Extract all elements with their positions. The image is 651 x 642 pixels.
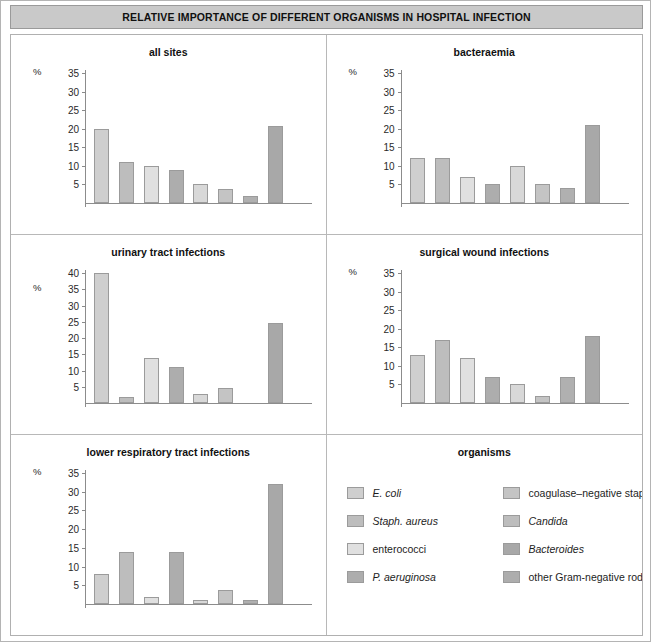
- y-tick-mark: [82, 567, 86, 568]
- bar: [94, 129, 109, 203]
- bar: [193, 394, 208, 403]
- y-tick-label: 15: [55, 542, 79, 553]
- y-tick-mark: [82, 184, 86, 185]
- bar: [169, 552, 184, 604]
- y-tick-mark: [82, 338, 86, 339]
- y-tick-mark: [398, 73, 402, 74]
- legend-item: Bacteroides: [503, 543, 643, 555]
- y-axis-unit-label: %: [33, 66, 41, 77]
- y-tick-label: 10: [55, 561, 79, 572]
- y-tick-mark: [82, 322, 86, 323]
- y-axis-unit-label: %: [349, 66, 357, 77]
- x-axis-line: [85, 403, 312, 404]
- y-tick-label: 10: [55, 365, 79, 376]
- legend-items: E. colicoagulase–negative staphsStaph. a…: [347, 487, 633, 583]
- legend-swatch: [347, 543, 364, 555]
- y-tick-label: 25: [371, 305, 395, 316]
- bar: [410, 158, 425, 203]
- y-tick-mark: [398, 273, 402, 274]
- y-tick-mark: [82, 129, 86, 130]
- panel-grid: all sites %5101520253035 bacteraemia %51…: [10, 34, 643, 636]
- legend-label: Candida: [529, 515, 568, 527]
- y-tick-label: 5: [371, 179, 395, 190]
- y-tick-mark: [82, 92, 86, 93]
- y-tick-label: 5: [55, 179, 79, 190]
- plot-area-1: %5101520253035: [327, 35, 643, 234]
- legend-item: P. aeruginosa: [347, 571, 497, 583]
- y-tick-mark: [82, 510, 86, 511]
- y-tick-mark: [398, 147, 402, 148]
- y-tick-label: 15: [55, 349, 79, 360]
- y-tick-label: 15: [371, 142, 395, 153]
- y-tick-mark: [398, 166, 402, 167]
- y-axis-unit-label: %: [33, 282, 41, 293]
- y-tick-label: 20: [55, 333, 79, 344]
- y-tick-label: 25: [55, 316, 79, 327]
- bar: [560, 377, 575, 403]
- bar: [560, 188, 575, 203]
- y-tick-label: 20: [371, 323, 395, 334]
- y-tick-label: 30: [371, 86, 395, 97]
- plot-area-3: %5101520253035: [327, 235, 643, 434]
- y-axis-line: [85, 70, 86, 207]
- y-tick-label: 25: [55, 105, 79, 116]
- plot-area-2: %510152025303540: [11, 235, 326, 434]
- bar: [485, 377, 500, 403]
- y-tick-label: 5: [55, 580, 79, 591]
- y-axis-line: [85, 470, 86, 608]
- y-tick-label: 40: [55, 268, 79, 279]
- y-tick-mark: [82, 585, 86, 586]
- bar: [119, 162, 134, 203]
- y-tick-label: 30: [55, 486, 79, 497]
- y-tick-label: 30: [371, 286, 395, 297]
- plot-area-4: %5101520253035: [11, 435, 326, 635]
- y-tick-mark: [398, 129, 402, 130]
- legend-swatch: [347, 487, 364, 499]
- bar: [585, 336, 600, 403]
- y-tick-label: 15: [55, 142, 79, 153]
- y-tick-mark: [398, 310, 402, 311]
- y-tick-mark: [82, 73, 86, 74]
- y-tick-mark: [398, 292, 402, 293]
- y-tick-mark: [82, 371, 86, 372]
- bar: [193, 600, 208, 604]
- legend-label: Bacteroides: [529, 543, 584, 555]
- y-tick-label: 35: [55, 468, 79, 479]
- chart-panel-lower-respiratory-tract-infections: lower respiratory tract infections %5101…: [11, 435, 327, 635]
- y-tick-mark: [82, 289, 86, 290]
- y-tick-label: 35: [371, 268, 395, 279]
- figure-root: RELATIVE IMPORTANCE OF DIFFERENT ORGANIS…: [0, 0, 651, 642]
- y-tick-mark: [82, 306, 86, 307]
- legend-item: enterococci: [347, 543, 497, 555]
- y-tick-mark: [82, 110, 86, 111]
- y-tick-label: 5: [371, 379, 395, 390]
- bar: [460, 177, 475, 203]
- y-tick-mark: [82, 473, 86, 474]
- y-tick-label: 20: [55, 123, 79, 134]
- bar: [268, 323, 283, 403]
- chart-panel-surgical-wound-infections: surgical wound infections %5101520253035: [327, 235, 643, 435]
- y-tick-mark: [82, 548, 86, 549]
- figure-header: RELATIVE IMPORTANCE OF DIFFERENT ORGANIS…: [10, 5, 643, 29]
- y-tick-label: 25: [55, 505, 79, 516]
- y-tick-mark: [82, 273, 86, 274]
- bar: [193, 184, 208, 203]
- y-tick-mark: [82, 492, 86, 493]
- legend-item: coagulase–negative staphs: [503, 487, 643, 499]
- y-tick-mark: [82, 147, 86, 148]
- legend-title: organisms: [327, 446, 643, 458]
- bar: [218, 189, 233, 203]
- plot-area-0: %5101520253035: [11, 35, 326, 234]
- y-tick-mark: [398, 329, 402, 330]
- y-axis-unit-label: %: [349, 266, 357, 277]
- y-tick-label: 30: [55, 86, 79, 97]
- y-tick-mark: [82, 354, 86, 355]
- x-axis-line: [85, 203, 312, 204]
- bar: [243, 600, 258, 604]
- x-axis-line: [401, 203, 629, 204]
- legend-label: E. coli: [373, 487, 402, 499]
- bar: [535, 396, 550, 403]
- bar: [144, 358, 159, 404]
- y-tick-label: 20: [371, 123, 395, 134]
- y-tick-mark: [82, 387, 86, 388]
